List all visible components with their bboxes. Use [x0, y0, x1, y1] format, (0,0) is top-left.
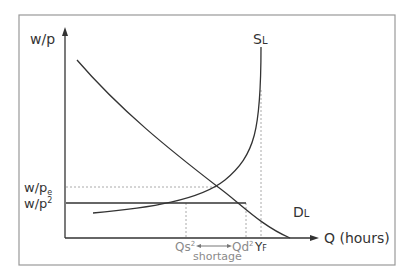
supply-label: SL — [253, 31, 268, 47]
y-axis-label: w/p — [30, 31, 55, 47]
x-axis-arrow-icon — [310, 235, 319, 241]
demand-label: DL — [293, 204, 310, 220]
yf-label: YF — [254, 240, 267, 254]
labor-market-diagram: w/p Q (hours) SL DL w/pe w/p2 Qs2 Qd2 YF… — [0, 0, 401, 276]
x-axis-label: Q (hours) — [324, 230, 390, 246]
shortage-arrow-left-icon — [196, 244, 201, 248]
diagram-frame — [19, 15, 395, 265]
supply-curve — [93, 47, 261, 213]
y-axis-arrow-icon — [62, 27, 68, 36]
equilibrium-wage-label: w/pe — [24, 180, 52, 197]
wage-floor-label: w/p2 — [24, 196, 52, 211]
shortage-label: shortage — [193, 250, 242, 263]
